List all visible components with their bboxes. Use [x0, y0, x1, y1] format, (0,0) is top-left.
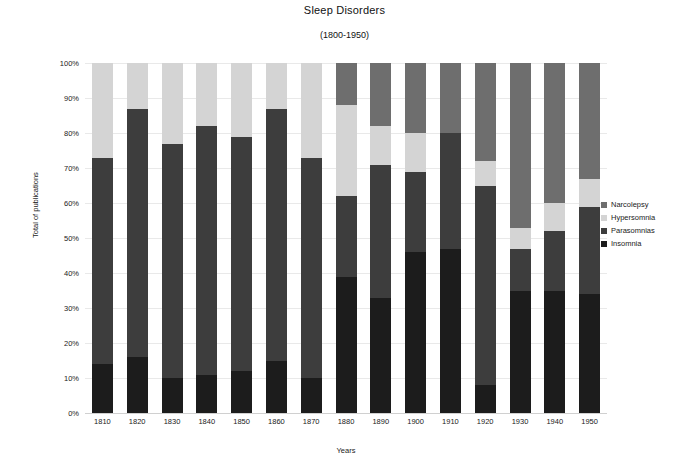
bar-group[interactable]: 1950	[579, 63, 600, 413]
bar-segment-parasomnias[interactable]	[127, 109, 148, 358]
bar-group[interactable]: 1930	[510, 63, 531, 413]
bar-segment-insomnia[interactable]	[196, 375, 217, 414]
bar-segment-narcolepsy[interactable]	[440, 63, 461, 133]
x-tick-label: 1890	[372, 417, 389, 426]
x-tick-label: 1930	[512, 417, 529, 426]
bar-group[interactable]: 1880	[336, 63, 357, 413]
bar-group[interactable]: 1840	[196, 63, 217, 413]
bar-segment-insomnia[interactable]	[440, 249, 461, 414]
bar-segment-hypersomnia[interactable]	[301, 63, 322, 158]
bar-group[interactable]: 1920	[475, 63, 496, 413]
legend-item[interactable]: Insomnia	[601, 237, 687, 250]
bar-segment-hypersomnia[interactable]	[544, 203, 565, 231]
legend-swatch-icon	[601, 215, 607, 221]
bar-segment-parasomnias[interactable]	[162, 144, 183, 379]
y-tick-label: 0%	[68, 409, 79, 418]
bar-segment-hypersomnia[interactable]	[579, 179, 600, 207]
bar-segment-parasomnias[interactable]	[92, 158, 113, 365]
bar-stack	[370, 63, 391, 413]
bar-segment-hypersomnia[interactable]	[370, 126, 391, 165]
bar-segment-narcolepsy[interactable]	[405, 63, 426, 133]
legend-item[interactable]: Hypersomnia	[601, 211, 687, 224]
bar-group[interactable]: 1900	[405, 63, 426, 413]
bar-segment-parasomnias[interactable]	[440, 133, 461, 249]
bar-segment-hypersomnia[interactable]	[475, 161, 496, 186]
bar-group[interactable]: 1820	[127, 63, 148, 413]
y-tick-label: 70%	[64, 164, 79, 173]
bar-segment-parasomnias[interactable]	[579, 207, 600, 295]
x-tick-label: 1870	[303, 417, 320, 426]
bar-segment-insomnia[interactable]	[370, 298, 391, 414]
bar-segment-narcolepsy[interactable]	[544, 63, 565, 203]
bar-group[interactable]: 1940	[544, 63, 565, 413]
bar-segment-hypersomnia[interactable]	[231, 63, 252, 137]
bar-segment-hypersomnia[interactable]	[196, 63, 217, 126]
stacked-bar-chart: Sleep Disorders (1800-1950) Total of pub…	[0, 0, 689, 465]
bar-segment-parasomnias[interactable]	[266, 109, 287, 361]
bar-segment-insomnia[interactable]	[336, 277, 357, 414]
bar-segment-insomnia[interactable]	[92, 364, 113, 413]
bar-stack	[579, 63, 600, 413]
bar-segment-insomnia[interactable]	[475, 385, 496, 413]
y-tick-label: 100%	[60, 59, 79, 68]
bar-group[interactable]: 1850	[231, 63, 252, 413]
bar-segment-insomnia[interactable]	[405, 252, 426, 413]
x-tick-label: 1920	[477, 417, 494, 426]
bar-stack	[162, 63, 183, 413]
bar-segment-insomnia[interactable]	[544, 291, 565, 414]
legend-swatch-icon	[601, 241, 607, 247]
bar-group[interactable]: 1890	[370, 63, 391, 413]
bar-group[interactable]: 1860	[266, 63, 287, 413]
bar-segment-insomnia[interactable]	[266, 361, 287, 414]
bar-stack	[475, 63, 496, 413]
bar-segment-narcolepsy[interactable]	[510, 63, 531, 228]
legend-swatch-icon	[601, 228, 607, 234]
legend-item[interactable]: Narcolepsy	[601, 198, 687, 211]
x-tick-label: 1810	[94, 417, 111, 426]
bar-segment-hypersomnia[interactable]	[127, 63, 148, 109]
y-tick-label: 50%	[64, 234, 79, 243]
bar-segment-parasomnias[interactable]	[510, 249, 531, 291]
bar-segment-insomnia[interactable]	[127, 357, 148, 413]
bar-segment-parasomnias[interactable]	[196, 126, 217, 375]
chart-title: Sleep Disorders	[0, 4, 689, 16]
bar-segment-insomnia[interactable]	[579, 294, 600, 413]
bar-group[interactable]: 1870	[301, 63, 322, 413]
bar-stack	[196, 63, 217, 413]
x-tick-label: 1910	[442, 417, 459, 426]
bar-stack	[544, 63, 565, 413]
bar-segment-narcolepsy[interactable]	[370, 63, 391, 126]
bar-segment-parasomnias[interactable]	[231, 137, 252, 372]
x-tick-label: 1850	[233, 417, 250, 426]
x-tick-label: 1830	[164, 417, 181, 426]
bar-segment-hypersomnia[interactable]	[162, 63, 183, 144]
bar-segment-parasomnias[interactable]	[544, 231, 565, 291]
bar-group[interactable]: 1830	[162, 63, 183, 413]
bar-segment-hypersomnia[interactable]	[266, 63, 287, 109]
bar-segment-hypersomnia[interactable]	[405, 133, 426, 172]
bar-segment-insomnia[interactable]	[162, 378, 183, 413]
bar-group[interactable]: 1810	[92, 63, 113, 413]
y-tick-label: 20%	[64, 339, 79, 348]
bar-segment-hypersomnia[interactable]	[336, 105, 357, 196]
bar-segment-insomnia[interactable]	[231, 371, 252, 413]
bar-stack	[266, 63, 287, 413]
bar-segment-hypersomnia[interactable]	[92, 63, 113, 158]
bar-segment-insomnia[interactable]	[301, 378, 322, 413]
bar-segment-parasomnias[interactable]	[370, 165, 391, 298]
bar-segment-insomnia[interactable]	[510, 291, 531, 414]
legend-item[interactable]: Parasomnias	[601, 224, 687, 237]
legend-label: Insomnia	[611, 239, 641, 248]
bar-segment-parasomnias[interactable]	[475, 186, 496, 386]
bar-group[interactable]: 1910	[440, 63, 461, 413]
bar-segment-parasomnias[interactable]	[301, 158, 322, 379]
bar-segment-narcolepsy[interactable]	[336, 63, 357, 105]
bar-segment-parasomnias[interactable]	[405, 172, 426, 253]
gridline-0: 0%	[85, 413, 607, 414]
bar-segment-hypersomnia[interactable]	[510, 228, 531, 249]
bar-segment-parasomnias[interactable]	[336, 196, 357, 277]
bar-segment-narcolepsy[interactable]	[475, 63, 496, 161]
chart-subtitle: (1800-1950)	[0, 30, 689, 40]
y-tick-label: 90%	[64, 94, 79, 103]
bar-segment-narcolepsy[interactable]	[579, 63, 600, 179]
